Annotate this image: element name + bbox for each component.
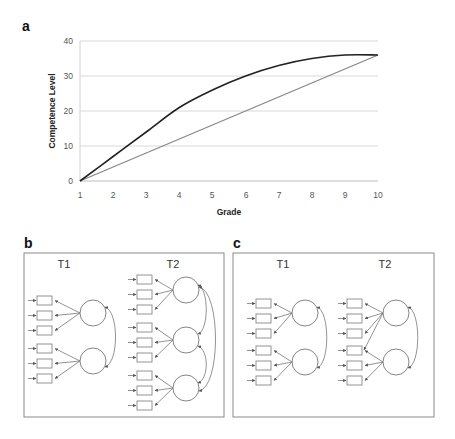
covariance-arrow [198,346,206,383]
figure-canvas: a 0 10 20 30 40 1 2 3 4 5 6 7 8 9 10 [0,0,455,439]
loading-arrow [55,349,80,362]
indicator-box [137,338,152,347]
latent-factor-circle [383,349,409,375]
indicator-box [347,299,362,308]
indicator-box [37,344,52,353]
indicator-box [256,376,271,385]
latent-factor-circle [292,349,318,375]
latent-factor-circle [173,375,199,401]
indicator-box [347,329,362,338]
loading-arrow [155,290,173,310]
panel-c-t1-label: T1 [277,258,290,270]
latent-factor-circle [80,300,106,326]
indicator-box [137,323,152,332]
panel-c: c T1 T2 [233,235,434,417]
loading-arrow [365,351,383,363]
panel-b-letter: b [24,235,33,251]
loading-arrow [55,361,80,379]
indicator-box [137,290,152,299]
loading-arrow [55,301,80,314]
indicator-box [37,359,52,368]
indicator-box [37,311,52,320]
panel-b-t1-label: T1 [58,258,71,270]
linear-series-line [80,55,378,181]
panel-b-t2-label: T2 [167,258,180,270]
loading-arrow [274,304,292,314]
indicator-box [137,275,152,284]
indicator-box [256,314,271,323]
covariance-arrow [199,287,216,391]
indicator-box [37,326,52,335]
loading-arrow [155,340,173,358]
y-tick: 40 [64,36,74,46]
panel-a: a 0 10 20 30 40 1 2 3 4 5 6 7 8 9 10 [22,18,383,217]
x-axis-title: Grade [217,207,242,217]
loading-arrow [155,290,173,295]
indicator-box [37,374,52,383]
latent-factor-circle [173,327,199,353]
covariance-arrow [105,307,116,367]
latent-factor-circle [80,348,106,374]
latent-factor-circle [292,300,318,326]
loading-arrow [55,361,80,364]
indicator-box [137,353,152,362]
indicator-box [347,346,362,355]
indicator-box [137,371,152,380]
indicator-box [37,296,52,305]
indicator-box [256,346,271,355]
x-tick: 2 [111,190,116,200]
x-axis-ticks: 1 2 3 4 5 6 7 8 9 10 [78,190,383,200]
indicator-box [137,386,152,395]
x-tick: 10 [373,190,383,200]
indicator-box [256,299,271,308]
x-tick: 8 [310,190,315,200]
covariance-arrow [408,307,418,368]
loading-arrow [274,351,292,363]
loading-arrow [365,304,383,314]
panel-b-sem-model [28,275,216,410]
loading-arrow [155,388,173,406]
loading-arrow [155,280,173,291]
loading-arrow [155,328,173,341]
y-gridlines [80,41,378,181]
x-tick: 6 [244,190,249,200]
x-tick: 7 [277,190,282,200]
y-tick: 30 [64,71,74,81]
loading-arrow [55,313,80,316]
x-tick: 4 [177,190,182,200]
indicator-box [137,305,152,314]
y-axis-title: Competence Level [47,73,57,148]
covariance-arrow [317,307,327,368]
panel-c-t2-label: T2 [379,258,392,270]
latent-factor-circle [383,300,409,326]
y-tick: 10 [64,141,74,151]
latent-factor-circle [173,277,199,303]
y-tick: 0 [68,176,73,186]
x-tick: 5 [210,190,215,200]
indicator-box [137,401,152,410]
panel-c-sem-model [247,299,418,385]
loading-arrow [55,313,80,331]
loading-arrow [155,376,173,389]
indicator-box [256,329,271,338]
indicator-box [256,361,271,370]
indicator-box [347,376,362,385]
panel-b: b T1 T2 [24,235,224,417]
y-tick: 20 [64,106,74,116]
indicator-box [347,361,362,370]
x-tick: 3 [144,190,149,200]
panel-c-letter: c [233,235,241,251]
indicator-box [347,314,362,323]
y-axis-ticks: 0 10 20 30 40 [64,36,74,186]
x-tick: 1 [78,190,83,200]
panel-a-letter: a [22,18,30,34]
x-tick: 9 [343,190,348,200]
